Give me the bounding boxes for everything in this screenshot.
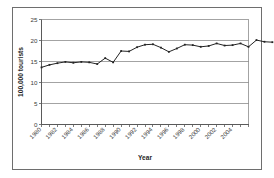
series-point	[88, 61, 90, 63]
series-point	[128, 51, 130, 53]
chart-plot-area: 0510152025198019821984198619881990199219…	[0, 0, 274, 178]
series-point	[264, 41, 266, 43]
series-point	[184, 44, 186, 46]
series-point	[271, 41, 273, 43]
series-point	[49, 64, 51, 66]
x-tick-label-1990: 1990	[108, 126, 122, 140]
series-point	[200, 46, 202, 48]
x-axis-title: Year	[138, 154, 152, 161]
y-tick-label-10: 10	[31, 79, 38, 86]
series-point	[136, 46, 138, 48]
series-point	[80, 61, 82, 63]
series-point	[224, 45, 226, 47]
series-point	[168, 51, 170, 53]
series-point	[72, 62, 74, 64]
x-tick-label-2000: 2000	[188, 126, 202, 140]
x-tick-label-1986: 1986	[76, 126, 90, 140]
series-point	[208, 45, 210, 47]
series-point	[176, 48, 178, 50]
x-tick-label-1982: 1982	[44, 126, 58, 140]
y-tick-label-25: 25	[31, 16, 38, 23]
y-tick-label-20: 20	[31, 37, 38, 44]
x-tick-label-1984: 1984	[60, 126, 74, 140]
x-tick-label-1988: 1988	[92, 126, 106, 140]
series-point	[256, 39, 258, 41]
y-tick-label-15: 15	[31, 58, 38, 65]
series-point	[192, 44, 194, 46]
x-tick-label-1992: 1992	[124, 126, 138, 140]
series-point	[104, 57, 106, 59]
series-point	[216, 43, 218, 45]
series-point	[41, 66, 43, 68]
series-point	[232, 44, 234, 46]
y-axis-title: 100,000 tourists	[17, 47, 25, 97]
series-point	[57, 62, 59, 64]
series-point	[248, 46, 250, 48]
series-point	[160, 47, 162, 49]
series-point	[144, 44, 146, 46]
series-point	[64, 61, 66, 63]
x-tick-label-2004: 2004	[220, 126, 234, 140]
series-point	[112, 61, 114, 63]
series-point	[120, 50, 122, 52]
series-point	[240, 43, 242, 45]
y-tick-label-5: 5	[34, 100, 38, 107]
series-point	[96, 63, 98, 65]
x-tick-label-1994: 1994	[140, 126, 154, 140]
x-tick-label-1980: 1980	[29, 126, 43, 140]
x-tick-label-1998: 1998	[172, 126, 186, 140]
x-tick-label-1996: 1996	[156, 126, 170, 140]
x-tick-label-2002: 2002	[204, 126, 218, 140]
series-line-tourists	[42, 40, 273, 67]
series-point	[152, 43, 154, 45]
chart-figure: 0510152025198019821984198619881990199219…	[0, 0, 274, 178]
